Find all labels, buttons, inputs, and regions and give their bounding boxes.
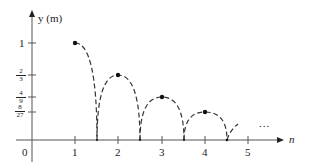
y-tick-8-27: 827 xyxy=(15,104,25,119)
x-tick-2: 2 xyxy=(115,147,121,158)
peak-dot xyxy=(160,95,164,99)
x-tick-3: 3 xyxy=(159,147,165,158)
x-tick-1: 1 xyxy=(72,147,78,158)
peak-dot xyxy=(73,41,77,45)
x-tick-4: 4 xyxy=(202,147,208,158)
y-tick-2-3: 23 xyxy=(16,68,26,83)
x-tick-5: 5 xyxy=(245,147,251,158)
x-axis-label: n xyxy=(289,134,295,145)
y-tick-1: 1 xyxy=(19,38,25,49)
y-axis-arrow-icon xyxy=(29,10,35,17)
trajectory xyxy=(75,43,238,140)
ellipsis: ... xyxy=(259,118,270,129)
y-axis-label: y (m) xyxy=(38,13,62,24)
bouncing-ball-diagram xyxy=(0,0,315,166)
origin-label: 0 xyxy=(22,147,28,158)
peak-dot xyxy=(116,73,120,77)
peak-dot xyxy=(203,110,207,114)
x-axis-arrow-icon xyxy=(277,137,284,143)
